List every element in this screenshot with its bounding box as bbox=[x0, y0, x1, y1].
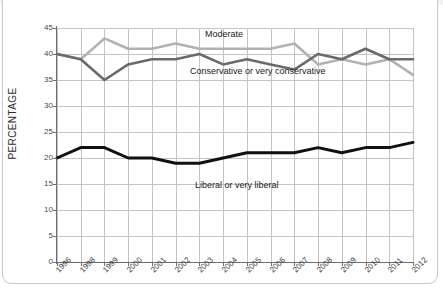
y-tick-mark bbox=[53, 262, 57, 263]
y-tick-mark bbox=[53, 54, 57, 55]
series-label-moderate: Moderate bbox=[205, 29, 243, 39]
y-tick-mark bbox=[53, 80, 57, 81]
line-chart: PERCENTAGE 051015202530354045 1996199819… bbox=[0, 0, 443, 298]
y-tick-mark bbox=[53, 28, 57, 29]
y-tick-mark bbox=[53, 184, 57, 185]
y-tick-mark bbox=[53, 132, 57, 133]
series-layer bbox=[0, 0, 443, 298]
series-label-liberal: Liberal or very liberal bbox=[195, 180, 279, 190]
y-tick-mark bbox=[53, 210, 57, 211]
y-tick-mark bbox=[53, 158, 57, 159]
y-tick-mark bbox=[53, 106, 57, 107]
series-line-liberal bbox=[57, 142, 413, 163]
series-label-conservative: Conservative or very conservative bbox=[190, 66, 326, 76]
y-tick-mark bbox=[53, 236, 57, 237]
